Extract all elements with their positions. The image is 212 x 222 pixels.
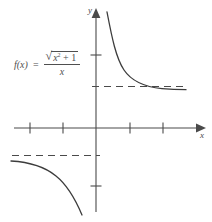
formula-fraction: √ x2 + 1 x: [44, 51, 81, 77]
formula-numerator: √ x2 + 1: [44, 51, 81, 64]
radicand-exponent: 2: [58, 52, 61, 58]
x-axis-label: x: [200, 131, 204, 140]
formula-denominator: x: [44, 65, 81, 77]
plot-canvas: [0, 0, 212, 222]
radicand-operator: +: [63, 52, 69, 63]
function-graph-figure: y x f(x) = √ x2 + 1 x: [0, 0, 212, 222]
radicand-constant: 1: [71, 52, 76, 63]
y-axis-label: y: [88, 6, 92, 15]
radical-expression: √ x2 + 1: [46, 51, 79, 63]
y-axis-arrowhead: [92, 8, 101, 18]
radicand: x2 + 1: [51, 51, 78, 63]
curve-branch-negative-x: [11, 161, 82, 215]
formula-equals-sign: =: [33, 59, 39, 70]
function-formula: f(x) = √ x2 + 1 x: [14, 51, 80, 77]
curve-branch-positive-x: [107, 12, 186, 90]
formula-function-name: f(x): [14, 59, 28, 70]
